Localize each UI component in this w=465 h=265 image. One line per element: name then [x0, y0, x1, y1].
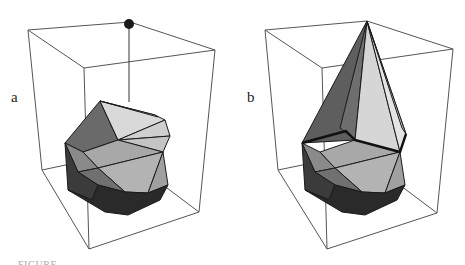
polyhedron-b	[302, 21, 406, 215]
figure: a b	[0, 0, 465, 265]
figure-caption: FIGURE …	[18, 258, 458, 265]
panel-b-illustration	[0, 0, 465, 265]
